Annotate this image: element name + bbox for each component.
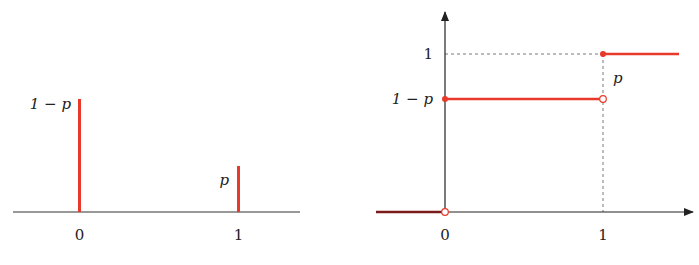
cdf-closed-point-1 (600, 51, 606, 57)
cdf-open-point-0 (442, 209, 449, 216)
cdf-ytick-1: 1 (423, 45, 433, 63)
cdf-tick-0: 0 (440, 226, 450, 244)
cdf-tick-1: 1 (598, 226, 608, 244)
pmf-label-p: p (219, 171, 229, 189)
bernoulli-figure: 1 − p p 0 1 1 1 − p p 0 1 (0, 0, 699, 265)
cdf-jump-label: p (613, 69, 623, 87)
cdf-ytick-1mp: 1 − p (392, 90, 434, 108)
cdf-chart: 1 1 − p p 0 1 (376, 12, 693, 244)
pmf-tick-0: 0 (75, 226, 85, 244)
cdf-open-point-1 (600, 96, 607, 103)
pmf-tick-1: 1 (234, 226, 244, 244)
cdf-closed-point-0 (442, 96, 448, 102)
pmf-chart: 1 − p p 0 1 (13, 95, 300, 244)
pmf-label-1mp: 1 − p (30, 95, 72, 113)
